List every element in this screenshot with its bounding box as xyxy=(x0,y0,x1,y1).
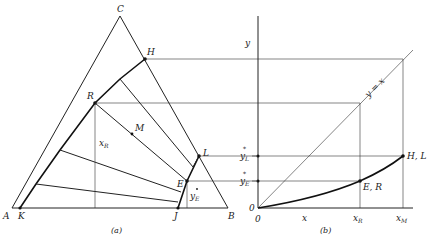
label-J: J xyxy=(172,211,179,221)
x-axis-label: x xyxy=(302,213,307,223)
tick-label-xM: xM xyxy=(396,213,408,224)
panel-a: C A B H R M L E K J xR yE (a) xyxy=(2,4,235,235)
extract-curve-upper xyxy=(193,156,199,167)
star-dot xyxy=(196,188,198,190)
tie-line xyxy=(60,150,181,192)
label-ER: E, R xyxy=(362,182,382,192)
label-A: A xyxy=(2,211,10,221)
tick-label-xR: xR xyxy=(353,213,363,224)
label-xR: xR xyxy=(99,138,109,149)
diagram-canvas: C A B H R M L E K J xR yE (a) xyxy=(0,0,427,239)
tie-line-RE xyxy=(95,103,187,181)
tick-label-yE: yE xyxy=(239,176,250,187)
label-H: H xyxy=(146,47,155,57)
label-B: B xyxy=(227,211,235,221)
point-J xyxy=(176,206,179,209)
point-M xyxy=(131,133,134,136)
point-HL xyxy=(401,154,405,158)
tick-star-yE: * xyxy=(243,170,246,177)
caption-a: (a) xyxy=(111,226,122,235)
diagonal-y-equals-x xyxy=(258,50,413,208)
point-K xyxy=(18,206,21,209)
raffinate-curve xyxy=(20,59,145,208)
label-L: L xyxy=(202,148,209,158)
label-E: E xyxy=(176,179,184,189)
label-M: M xyxy=(134,123,145,133)
origin-label-x: 0 xyxy=(255,214,261,224)
label-C: C xyxy=(117,4,124,14)
ternary-triangle xyxy=(12,16,228,208)
label-HL: H, L xyxy=(406,151,427,161)
panel-b: y y = x 0 0 x xR xM yL * yE * E, R H, L … xyxy=(239,16,427,235)
caption-b: (b) xyxy=(320,226,331,235)
tie-line xyxy=(36,184,178,202)
label-R: R xyxy=(86,91,94,101)
point-ER xyxy=(358,179,362,183)
label-yE-star: yE xyxy=(189,191,200,202)
label-K: K xyxy=(17,211,26,221)
tie-line xyxy=(120,79,193,167)
tick-star-yL: * xyxy=(243,145,246,152)
y-axis-label: y xyxy=(244,38,251,48)
origin-label: 0 xyxy=(249,203,255,213)
diagonal-label: y = x xyxy=(362,76,386,100)
tick-label-yL: yL xyxy=(239,151,249,162)
